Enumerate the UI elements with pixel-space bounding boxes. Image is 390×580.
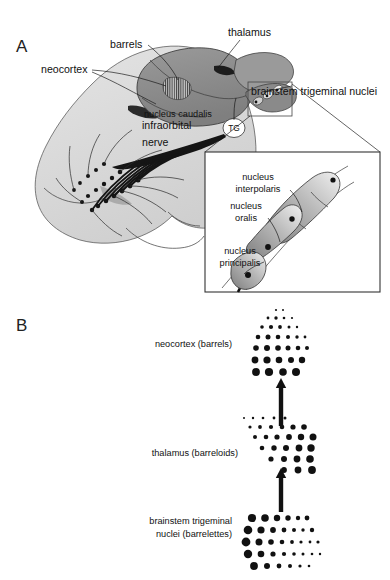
cluster-dot — [262, 417, 265, 420]
nucleus-oralis-marker — [265, 244, 271, 250]
cluster-dot — [274, 434, 279, 439]
cluster-dot — [286, 335, 290, 339]
panel-b-letter: B — [16, 316, 27, 335]
label-nucleus-principalis-line1: nucleus — [224, 246, 256, 256]
cluster-dot — [268, 456, 273, 461]
cluster-dot — [286, 434, 292, 440]
nucleus-interpolaris-marker-2 — [289, 216, 294, 221]
cluster-dot — [307, 444, 314, 451]
cluster-dot — [305, 516, 310, 521]
cluster-dot — [286, 346, 291, 351]
cluster-dot — [306, 455, 314, 463]
cluster-dot — [285, 515, 290, 520]
cluster-dot — [261, 514, 269, 522]
cluster-dot — [301, 528, 304, 531]
cluster-dot — [298, 564, 301, 567]
label-barrels: barrels — [110, 38, 142, 50]
cluster-dot — [296, 346, 301, 351]
cluster-dot — [290, 540, 294, 544]
cluster-dot — [282, 552, 286, 556]
cluster-dot — [282, 528, 287, 533]
cluster-dot — [273, 417, 276, 420]
panel-a-letter: A — [16, 37, 28, 56]
cluster-dot — [244, 550, 252, 558]
cluster-dot — [253, 435, 257, 439]
cluster-dot — [294, 456, 301, 463]
cluster-dot — [283, 317, 286, 320]
cluster-dot — [274, 515, 280, 521]
label-nucleus-interpolaris-line1: nucleus — [242, 172, 274, 182]
cluster-dot — [296, 445, 303, 452]
label-thalamus-barreloids: thalamus (barreloids) — [152, 448, 238, 458]
label-infraorbital-nerve-line1: infraorbital — [142, 119, 191, 131]
cluster-dot — [281, 456, 287, 462]
cluster-dot — [288, 357, 294, 363]
cluster-dot — [299, 357, 305, 363]
cluster-dot — [270, 551, 275, 556]
label-nucleus-caudalis: nucleus caudalis — [144, 109, 212, 119]
nucleus-principalis-marker — [245, 272, 251, 278]
cluster-dot — [295, 467, 302, 474]
cluster-dot — [260, 446, 265, 451]
label-brainstem-nuclei-line2: nuclei (barrelettes) — [156, 529, 232, 539]
inset-panel: nucleus interpolaris nucleus oralis nucl… — [205, 152, 380, 292]
cluster-dot — [270, 527, 276, 533]
cluster-dot — [298, 434, 304, 440]
cluster-dot — [295, 335, 298, 338]
cluster-dot — [284, 417, 287, 420]
cluster-dot — [283, 445, 289, 451]
cluster-dot — [296, 516, 300, 520]
cluster-dot — [301, 424, 307, 430]
cluster-dot — [282, 309, 284, 311]
cluster-dot — [278, 325, 282, 329]
barrel-field-patch — [163, 77, 191, 99]
cluster-dot — [310, 528, 314, 532]
cluster-dot — [309, 541, 312, 544]
cluster-dot — [252, 357, 259, 364]
cluster-dot — [242, 538, 251, 547]
cluster-dot — [250, 562, 258, 570]
cluster-dot — [274, 316, 277, 319]
cluster-dot — [292, 552, 296, 556]
cluster-dot — [292, 528, 296, 532]
cluster-dot — [296, 326, 298, 328]
cluster-dot — [269, 325, 273, 329]
cluster-dot — [305, 346, 309, 350]
label-brainstem-nuclei-line1: brainstem trigeminal — [149, 516, 232, 526]
cluster-dot — [248, 514, 256, 522]
cluster-dot — [288, 326, 291, 329]
cluster-dot — [269, 425, 273, 429]
cluster-dot — [308, 565, 311, 568]
label-brainstem-trigeminal-nuclei: brainstem trigeminal nuclei — [251, 85, 377, 97]
cluster-dot — [276, 357, 283, 364]
cluster-dot — [264, 563, 270, 569]
cluster-dot — [271, 445, 276, 450]
cluster-dot — [248, 425, 251, 428]
cluster-dot — [291, 317, 293, 319]
cluster-dot — [257, 526, 264, 533]
label-neocortex-barrels: neocortex (barrels) — [155, 339, 232, 349]
cluster-dot — [277, 564, 282, 569]
label-nucleus-oralis-line1: nucleus — [230, 201, 262, 211]
label-nucleus-oralis-line2: oralis — [235, 213, 257, 223]
cluster-dot — [258, 425, 262, 429]
cluster-dot — [310, 434, 317, 441]
cluster-dot — [267, 317, 270, 320]
label-neocortex: neocortex — [41, 63, 88, 75]
cluster-dot — [256, 539, 263, 546]
cluster-dot — [279, 368, 287, 376]
cluster-dot — [316, 540, 319, 543]
cluster-dot — [258, 551, 265, 558]
nucleus-interpolaris-marker — [330, 177, 335, 182]
cluster-dot — [253, 345, 259, 351]
cluster-dot — [308, 466, 316, 474]
label-infraorbital-nerve-line2: nerve — [142, 136, 169, 148]
cluster-dot — [275, 345, 281, 351]
cluster-dot — [268, 539, 274, 545]
cluster-dot — [252, 417, 254, 419]
cluster-dot — [275, 309, 277, 311]
cluster-dot — [299, 540, 302, 543]
cluster-dot — [280, 540, 285, 545]
label-thalamus: thalamus — [228, 26, 271, 38]
cluster-dot — [292, 368, 300, 376]
